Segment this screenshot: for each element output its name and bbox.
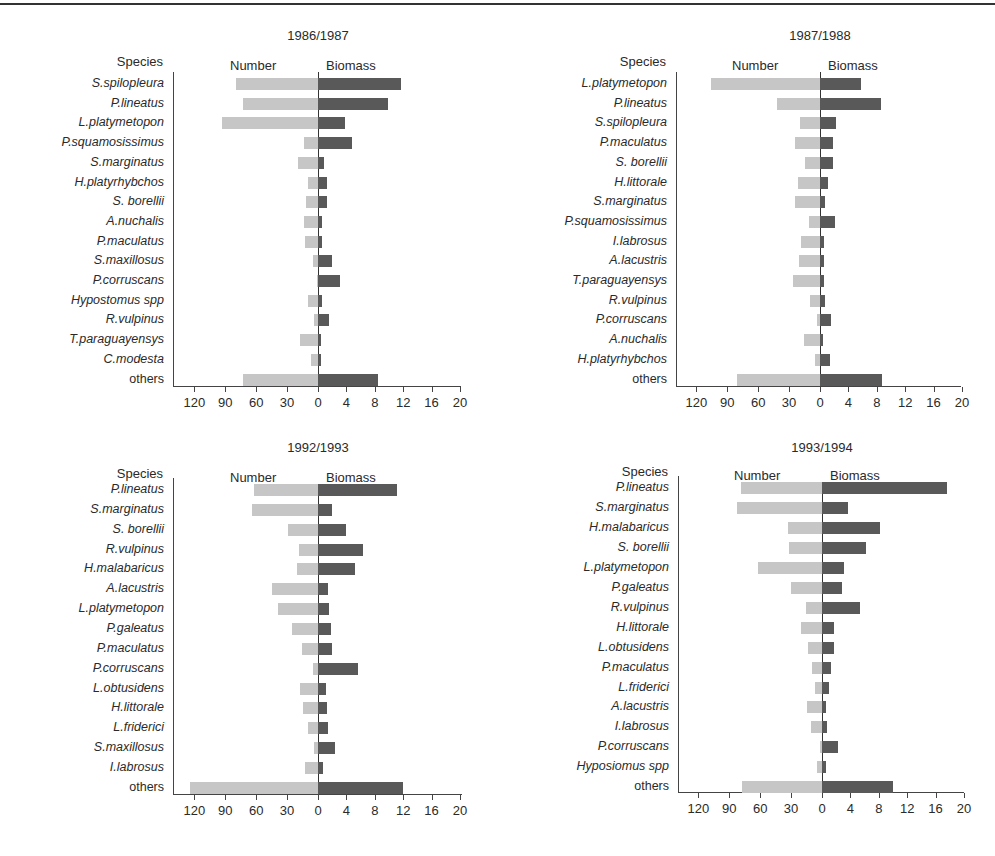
- species-label: S.marginatus: [0, 502, 164, 516]
- number-bar: [795, 196, 820, 208]
- y-axis-line: [173, 72, 174, 386]
- species-label: H.malabaricus: [504, 520, 669, 534]
- species-label: L.platymetopon: [504, 560, 669, 574]
- chart-title: 1992/1993: [258, 440, 378, 455]
- number-bar: [789, 542, 822, 554]
- y-axis-line: [678, 476, 679, 792]
- species-axis-label: Species: [516, 54, 666, 69]
- number-bar: [243, 98, 318, 110]
- species-label: S.spilopleura: [502, 115, 667, 129]
- biomass-bar: [318, 137, 352, 149]
- number-bar: [308, 722, 318, 734]
- x-tick: [225, 795, 226, 800]
- biomass-bar: [318, 117, 345, 129]
- number-axis-label: Number: [732, 58, 778, 73]
- species-label: P.corruscans: [0, 661, 164, 675]
- number-bar: [791, 582, 822, 594]
- number-bar: [737, 502, 822, 514]
- biomass-bar: [318, 374, 378, 386]
- number-bar: [741, 482, 822, 494]
- number-bar: [799, 255, 820, 267]
- biomass-bar: [318, 603, 329, 615]
- biomass-bar: [822, 562, 844, 574]
- species-label: A.nuchalis: [502, 332, 667, 346]
- species-label: R.vulpinus: [502, 293, 667, 307]
- biomass-bar: [822, 522, 880, 534]
- number-tick-label: 90: [710, 395, 744, 410]
- species-label: P.maculatus: [504, 660, 669, 674]
- species-label: T.paraguayensys: [0, 332, 164, 346]
- species-label: R.vulpinus: [0, 312, 164, 326]
- biomass-bar: [318, 216, 322, 228]
- number-bar: [811, 721, 822, 733]
- biomass-bar: [318, 643, 332, 655]
- biomass-bar: [820, 354, 830, 366]
- biomass-bar: [820, 157, 833, 169]
- species-label: P.squamosissimus: [502, 214, 667, 228]
- species-label: A.lacustris: [504, 699, 669, 713]
- x-tick: [791, 793, 792, 798]
- number-bar: [308, 295, 318, 307]
- biomass-bar: [822, 642, 834, 654]
- number-bar: [808, 642, 822, 654]
- number-bar: [300, 334, 318, 346]
- number-bar: [254, 484, 318, 496]
- number-bar: [801, 236, 820, 248]
- biomass-bar: [822, 622, 834, 634]
- x-tick: [758, 387, 759, 392]
- biomass-bar: [820, 255, 824, 267]
- number-tick-label: 60: [743, 801, 777, 816]
- biomass-bar: [822, 682, 829, 694]
- number-tick-label: 120: [679, 395, 713, 410]
- number-axis-label: Number: [230, 58, 276, 73]
- species-label: L.obtusidens: [0, 681, 164, 695]
- number-bar: [299, 544, 318, 556]
- y-axis-line: [173, 478, 174, 794]
- species-label: S. borellii: [0, 522, 164, 536]
- number-bar: [304, 216, 318, 228]
- number-bar: [306, 196, 318, 208]
- species-label: S.marginatus: [502, 194, 667, 208]
- species-label: I.labrosus: [0, 760, 164, 774]
- species-label: Hyposiomus spp: [504, 759, 669, 773]
- species-axis-label: Species: [13, 54, 163, 69]
- species-label: S.maxillosus: [0, 253, 164, 267]
- number-axis-label: Number: [734, 468, 780, 483]
- number-bar: [805, 157, 820, 169]
- number-bar: [311, 354, 318, 366]
- number-bar: [190, 782, 318, 794]
- x-tick: [698, 793, 699, 798]
- x-tick: [432, 387, 433, 392]
- biomass-bar: [820, 314, 831, 326]
- biomass-bar: [318, 484, 397, 496]
- x-tick: [848, 387, 849, 392]
- biomass-tick-label: 20: [443, 395, 477, 410]
- number-bar: [737, 374, 820, 386]
- species-label: S. borellii: [0, 194, 164, 208]
- number-bar: [304, 137, 318, 149]
- species-label: L.platymetopon: [0, 115, 164, 129]
- number-bar: [809, 216, 820, 228]
- species-label: R.vulpinus: [504, 600, 669, 614]
- biomass-bar: [318, 583, 328, 595]
- x-tick: [194, 795, 195, 800]
- number-bar: [292, 623, 318, 635]
- number-tick-label: 90: [712, 801, 746, 816]
- number-bar: [297, 563, 318, 575]
- species-label: P.galeatus: [0, 621, 164, 635]
- number-bar: [300, 683, 318, 695]
- number-bar: [272, 583, 318, 595]
- y-axis-line: [676, 72, 677, 386]
- x-axis-line: [173, 386, 461, 387]
- biomass-bar: [820, 98, 881, 110]
- biomass-bar: [318, 334, 321, 346]
- number-bar: [800, 117, 820, 129]
- biomass-bar: [318, 623, 331, 635]
- biomass-bar: [318, 275, 340, 287]
- number-tick-label: 30: [270, 803, 304, 818]
- species-label: H.littorale: [0, 700, 164, 714]
- x-tick: [318, 387, 319, 392]
- x-tick: [879, 793, 880, 798]
- biomass-bar: [318, 78, 401, 90]
- biomass-bar: [822, 761, 826, 773]
